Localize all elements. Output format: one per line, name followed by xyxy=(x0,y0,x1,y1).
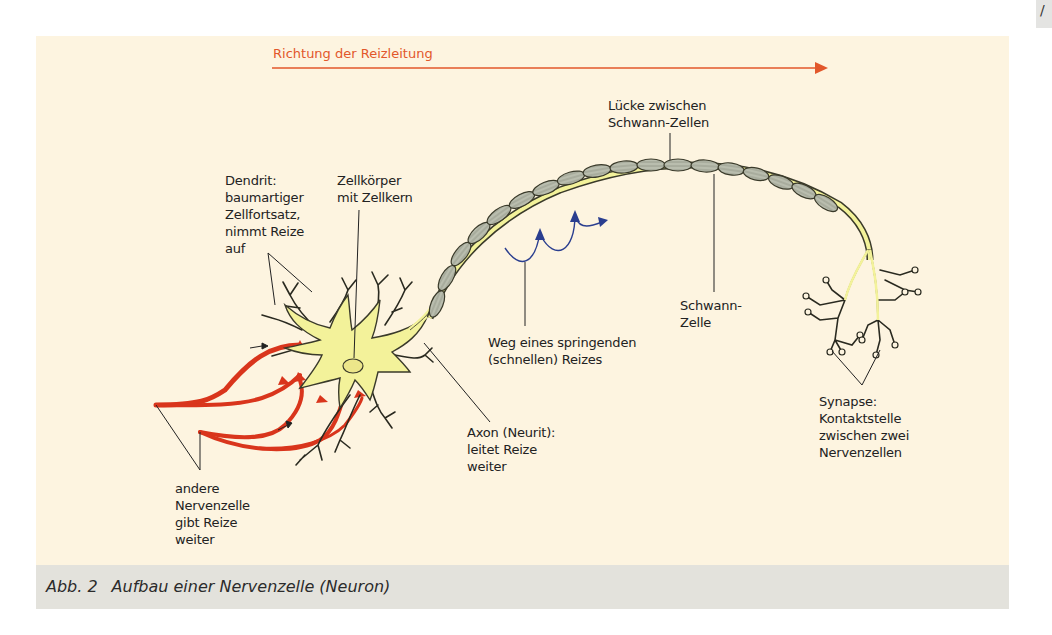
label-dendrit: Dendrit: baumartiger Zellfortsatz, nimmt… xyxy=(225,172,304,257)
neuron-diagram xyxy=(0,0,1052,635)
label-luecke-schwann: Lücke zwischen Schwann-Zellen xyxy=(608,97,709,131)
label-zellkoerper: Zellkörper mit Zellkern xyxy=(337,172,413,206)
saltatory-arrows xyxy=(505,215,602,261)
direction-arrow-icon xyxy=(272,62,828,74)
schwann-cells xyxy=(426,159,840,319)
nucleus xyxy=(343,359,363,373)
label-andere-nervenzelle: andere Nervenzelle gibt Reize weiter xyxy=(175,480,250,548)
saltatory-arrowheads xyxy=(535,210,608,240)
label-synapse: Synapse: Kontaktstelle zwischen zwei Ner… xyxy=(819,393,909,461)
direction-label: Richtung der Reizleitung xyxy=(273,46,433,61)
label-weg-reiz: Weg eines springenden (schnellen) Reizes xyxy=(488,334,636,368)
label-axon: Axon (Neurit): leitet Reize weiter xyxy=(467,424,555,475)
terminal-boutons xyxy=(803,267,921,358)
label-schwann-zelle: Schwann- Zelle xyxy=(680,297,742,331)
